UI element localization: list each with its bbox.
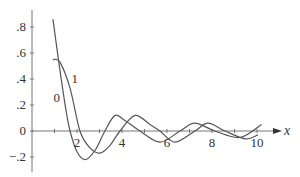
x-tick-label: 2 (74, 135, 81, 150)
curves (53, 19, 262, 159)
y-tick-label: 0 (20, 123, 27, 138)
curve-1 (53, 59, 258, 153)
plot-area: x246810.8.6.4.20−.201 (0, 0, 300, 177)
y-tick-label: −.2 (9, 149, 26, 164)
x-tick-label: 4 (119, 135, 126, 150)
curve-0 (53, 19, 262, 159)
y-tick-label: .8 (16, 19, 26, 34)
y-tick-label: .4 (16, 71, 26, 86)
bessel-curves-chart: x246810.8.6.4.20−.201 (0, 0, 300, 177)
y-tick-label: .2 (16, 97, 26, 112)
x-tick-label: 6 (164, 135, 171, 150)
curve-1-label: 1 (72, 71, 79, 86)
labels: x246810.8.6.4.20−.201 (9, 19, 291, 164)
x-axis-arrow-icon (273, 128, 282, 134)
curve-0-label: 0 (54, 90, 61, 105)
y-tick-label: .6 (16, 45, 26, 60)
x-axis-label: x (283, 123, 291, 138)
axes (30, 10, 282, 172)
x-tick-label: 8 (209, 135, 216, 150)
x-tick-label: 10 (251, 135, 264, 150)
